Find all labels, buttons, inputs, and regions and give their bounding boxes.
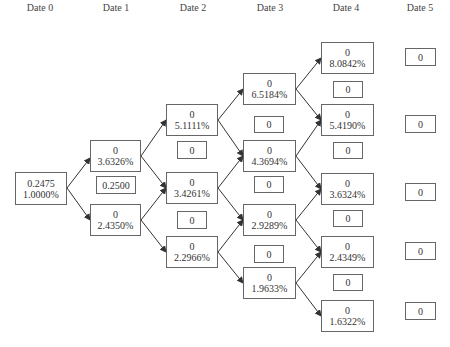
node-value: 0 [190,177,195,188]
node-rate: 6.5184% [252,89,288,100]
node-value: 0 [267,145,272,156]
node-d3-1: 0 4.3694% [243,140,296,172]
cashflow-d1-0: 0.2500 [96,176,136,194]
node-d4-3: 0 2.4349% [321,236,374,268]
node-d1-0: 0 3.6326% [90,140,141,172]
cashflow-d2-0: 0 [177,141,207,159]
node-value: 0 [345,178,350,189]
node-rate: 3.6324% [330,189,366,200]
cashflow-d3-1: 0 [254,176,284,193]
node-value: 0 [190,109,195,120]
cashflow-d5-3: 0 [405,242,436,260]
cashflow-d4-0: 0 [333,81,363,98]
cashflow-d2-1: 0 [177,211,207,229]
node-d3-2: 0 2.9289% [243,204,296,236]
node-d3-3: 0 1.9633% [243,267,296,299]
node-value: 0 [345,109,350,120]
node-rate: 5.4190% [330,120,366,131]
node-value: 0.2475 [27,178,55,189]
node-rate: 1.0000% [23,189,59,200]
cashflow-d4-1: 0 [333,142,363,159]
node-d2-2: 0 2.2966% [166,236,218,268]
node-rate: 3.4261% [174,188,210,199]
node-rate: 1.6322% [330,316,366,327]
cashflow-d3-2: 0 [254,245,284,263]
node-rate: 8.0842% [330,58,366,69]
node-value: 0 [345,241,350,252]
node-d4-4: 0 1.6322% [321,300,374,332]
node-d4-0: 0 8.0842% [321,42,374,74]
node-d4-1: 0 5.4190% [321,104,374,136]
cashflow-d4-2: 0 [333,210,363,227]
node-d2-1: 0 3.4261% [166,172,218,204]
cashflow-d5-1: 0 [405,115,436,133]
node-value: 0 [345,305,350,316]
node-value: 0 [113,209,118,220]
node-rate: 3.6326% [98,156,134,167]
node-value: 0 [267,272,272,283]
node-value: 0 [113,145,118,156]
node-rate: 2.4349% [330,252,366,263]
cashflow-d3-0: 0 [254,116,284,133]
node-rate: 2.9289% [252,220,288,231]
node-d3-0: 0 6.5184% [243,73,296,105]
node-rate: 1.9633% [252,283,288,294]
node-d4-2: 0 3.6324% [321,173,374,205]
node-value: 0 [345,47,350,58]
cashflow-d4-3: 0 [333,274,363,291]
node-d1-1: 0 2.4350% [90,204,141,236]
node-rate: 2.2966% [174,252,210,263]
node-value: 0 [267,209,272,220]
node-d2-0: 0 5.1111% [166,104,218,136]
tree-edges [0,0,450,347]
cashflow-d5-2: 0 [405,183,436,201]
node-rate: 4.3694% [252,156,288,167]
cashflow-d5-4: 0 [405,302,436,320]
node-value: 0 [190,241,195,252]
node-d0-0: 0.2475 1.0000% [15,172,67,205]
cashflow-d5-0: 0 [405,48,436,66]
node-rate: 5.1111% [175,120,210,131]
node-rate: 2.4350% [98,220,134,231]
node-value: 0 [267,78,272,89]
